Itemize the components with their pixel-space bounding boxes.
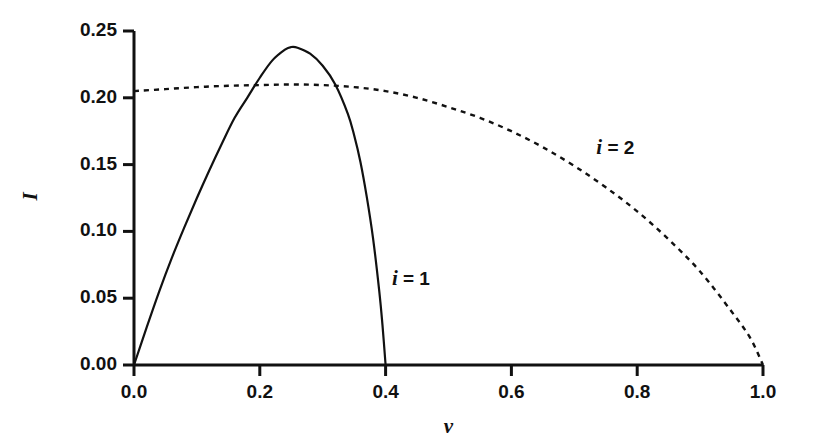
y-tick-label: 0.15 xyxy=(80,153,117,175)
y-tick-label: 0.25 xyxy=(80,19,117,41)
y-axis-ticks xyxy=(123,31,134,365)
curve-annotation-symbol: i xyxy=(596,135,602,159)
x-axis-title: v xyxy=(399,414,499,439)
x-tick-label: 1.0 xyxy=(723,381,803,403)
x-tick-label: 0.8 xyxy=(597,381,677,403)
chart-figure: 0.000.050.100.150.200.25 0.00.20.40.60.8… xyxy=(0,0,815,445)
curve-annotation: i = 1 xyxy=(392,266,430,291)
y-tick-label: 0.05 xyxy=(80,286,117,308)
axis-lines xyxy=(134,31,763,365)
x-tick-label: 0.4 xyxy=(346,381,426,403)
y-tick-label: 0.00 xyxy=(80,353,117,375)
x-axis-ticks xyxy=(134,365,763,376)
y-tick-label: 0.10 xyxy=(80,219,117,241)
curve-annotation-symbol: i xyxy=(392,266,398,290)
plot-canvas xyxy=(0,0,815,445)
x-tick-label: 0.2 xyxy=(220,381,300,403)
series-line-i2 xyxy=(134,84,763,365)
y-tick-label: 0.20 xyxy=(80,86,117,108)
x-tick-label: 0.6 xyxy=(471,381,551,403)
series-line-i1 xyxy=(134,47,386,365)
curve-annotation: i = 2 xyxy=(596,135,634,160)
x-tick-label: 0.0 xyxy=(94,381,174,403)
y-axis-title: I xyxy=(18,192,43,200)
